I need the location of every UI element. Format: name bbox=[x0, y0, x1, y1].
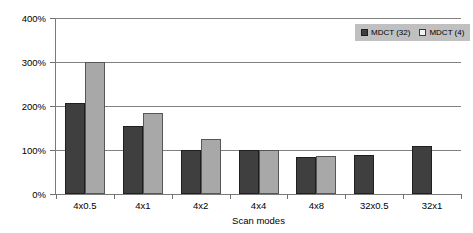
x-axis-tick-label: 4x8 bbox=[287, 200, 345, 211]
x-axis-tick-label: 32x0.5 bbox=[345, 200, 403, 211]
bar-group bbox=[345, 18, 403, 194]
bar-group bbox=[172, 18, 230, 194]
y-axis-label: 0% bbox=[0, 190, 46, 200]
bar bbox=[296, 157, 316, 194]
legend-entry-mdct-4: MDCT (4) bbox=[419, 28, 464, 37]
x-axis-tick-label: 4x0.5 bbox=[56, 200, 114, 211]
bar bbox=[181, 150, 201, 194]
legend-label-mdct-4: MDCT (4) bbox=[429, 28, 464, 37]
x-axis-tick-label: 4x2 bbox=[172, 200, 230, 211]
bar-chart: 0%100%200%300%400% 4x0.54x14x24x44x832x0… bbox=[0, 0, 473, 233]
bar bbox=[259, 150, 279, 194]
bar bbox=[201, 139, 221, 194]
x-axis-tick bbox=[114, 194, 115, 199]
x-axis-tick-label: 4x4 bbox=[230, 200, 288, 211]
x-axis-line bbox=[56, 194, 462, 195]
bar bbox=[239, 150, 259, 194]
y-axis-label: 400% bbox=[0, 14, 46, 24]
x-axis-tick bbox=[56, 194, 57, 199]
legend-entry-mdct-32: MDCT (32) bbox=[361, 28, 410, 37]
x-axis-tick-label: 32x1 bbox=[403, 200, 461, 211]
bar bbox=[316, 156, 336, 194]
x-axis-tick bbox=[172, 194, 173, 199]
bar bbox=[143, 113, 163, 194]
y-axis-label: 200% bbox=[0, 102, 46, 112]
bar-group bbox=[114, 18, 172, 194]
legend-label-mdct-32: MDCT (32) bbox=[371, 28, 410, 37]
legend-swatch-icon-mdct-4 bbox=[419, 29, 426, 36]
x-axis-tick bbox=[287, 194, 288, 199]
y-axis-label: 100% bbox=[0, 146, 46, 156]
legend-swatch-icon-mdct-32 bbox=[361, 29, 368, 36]
x-axis-tick-label: 4x1 bbox=[114, 200, 172, 211]
bar-group bbox=[287, 18, 345, 194]
bar-group bbox=[230, 18, 288, 194]
x-axis-tick bbox=[230, 194, 231, 199]
x-axis-tick bbox=[403, 194, 404, 199]
x-axis-tick bbox=[461, 194, 462, 199]
bar bbox=[85, 62, 105, 194]
bar-groups bbox=[56, 18, 461, 194]
x-axis-title: Scan modes bbox=[56, 215, 461, 226]
y-axis-label: 300% bbox=[0, 58, 46, 68]
chart-legend: MDCT (32) MDCT (4) bbox=[355, 24, 470, 41]
bar bbox=[412, 146, 432, 194]
bar bbox=[123, 126, 143, 194]
bar bbox=[65, 103, 85, 194]
bar-group bbox=[56, 18, 114, 194]
x-axis-labels: 4x0.54x14x24x44x832x0.532x1 bbox=[56, 200, 461, 211]
bar bbox=[354, 155, 374, 194]
bar-group bbox=[403, 18, 461, 194]
x-axis-tick bbox=[345, 194, 346, 199]
